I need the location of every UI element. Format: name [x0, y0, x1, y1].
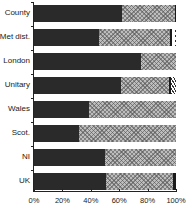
- y-tick: [31, 26, 34, 27]
- y-tick: [31, 74, 34, 75]
- y-tick: [31, 2, 34, 3]
- bar-segment: [121, 77, 169, 94]
- bar-segment: [141, 53, 177, 70]
- bar-segment: [171, 77, 176, 94]
- category-label: Unitary: [5, 80, 30, 89]
- x-tick: [119, 189, 120, 192]
- x-tick: [62, 189, 63, 192]
- bar-segment: [34, 125, 79, 142]
- bar-county: [34, 5, 176, 22]
- category-label: NI: [22, 152, 30, 161]
- x-tick-label: 20%: [55, 196, 70, 205]
- x-tick: [176, 189, 177, 192]
- x-tick-label: 60%: [112, 196, 127, 205]
- bar-segment: [105, 149, 176, 166]
- bar-segment: [89, 101, 176, 118]
- bar-segment: [175, 29, 176, 46]
- bar-segment: [34, 29, 99, 46]
- category-label: Met dist.: [0, 32, 30, 41]
- bar-wales: [34, 101, 176, 118]
- bar-segment: [34, 149, 105, 166]
- bar-segment: [34, 77, 121, 94]
- bar-uk: [34, 173, 176, 190]
- y-tick: [31, 98, 34, 99]
- x-tick: [91, 189, 92, 192]
- bar-segment: [99, 29, 170, 46]
- category-label: County: [5, 8, 30, 17]
- y-tick: [31, 170, 34, 171]
- y-tick: [31, 122, 34, 123]
- x-tick-label: 100%: [166, 196, 185, 205]
- x-tick-label: 40%: [83, 196, 98, 205]
- bar-segment: [173, 173, 176, 190]
- bar-london: [34, 53, 176, 70]
- x-tick-label: 80%: [140, 196, 155, 205]
- bar-segment: [34, 5, 122, 22]
- bar-segment: [106, 173, 173, 190]
- bar-segment: [122, 5, 175, 22]
- bar-ni: [34, 149, 176, 166]
- bar-segment: [34, 173, 106, 190]
- category-label: London: [3, 56, 30, 65]
- bar-scot: [34, 125, 176, 142]
- x-tick: [148, 189, 149, 192]
- bar-segment: [34, 53, 141, 70]
- y-tick: [31, 146, 34, 147]
- bar-met-dist: [34, 29, 176, 46]
- category-label: Scot.: [12, 128, 30, 137]
- bar-segment: [79, 125, 176, 142]
- x-tick: [34, 189, 35, 192]
- bar-segment: [34, 101, 89, 118]
- bar-unitary: [34, 77, 176, 94]
- y-tick: [31, 50, 34, 51]
- stacked-bar-chart: CountyMet dist.LondonUnitaryWalesScot.NI…: [0, 0, 186, 212]
- x-axis: [33, 191, 177, 192]
- x-tick-label: 0%: [29, 196, 40, 205]
- bar-segment: [175, 5, 176, 22]
- category-label: Wales: [8, 104, 30, 113]
- category-label: UK: [19, 176, 30, 185]
